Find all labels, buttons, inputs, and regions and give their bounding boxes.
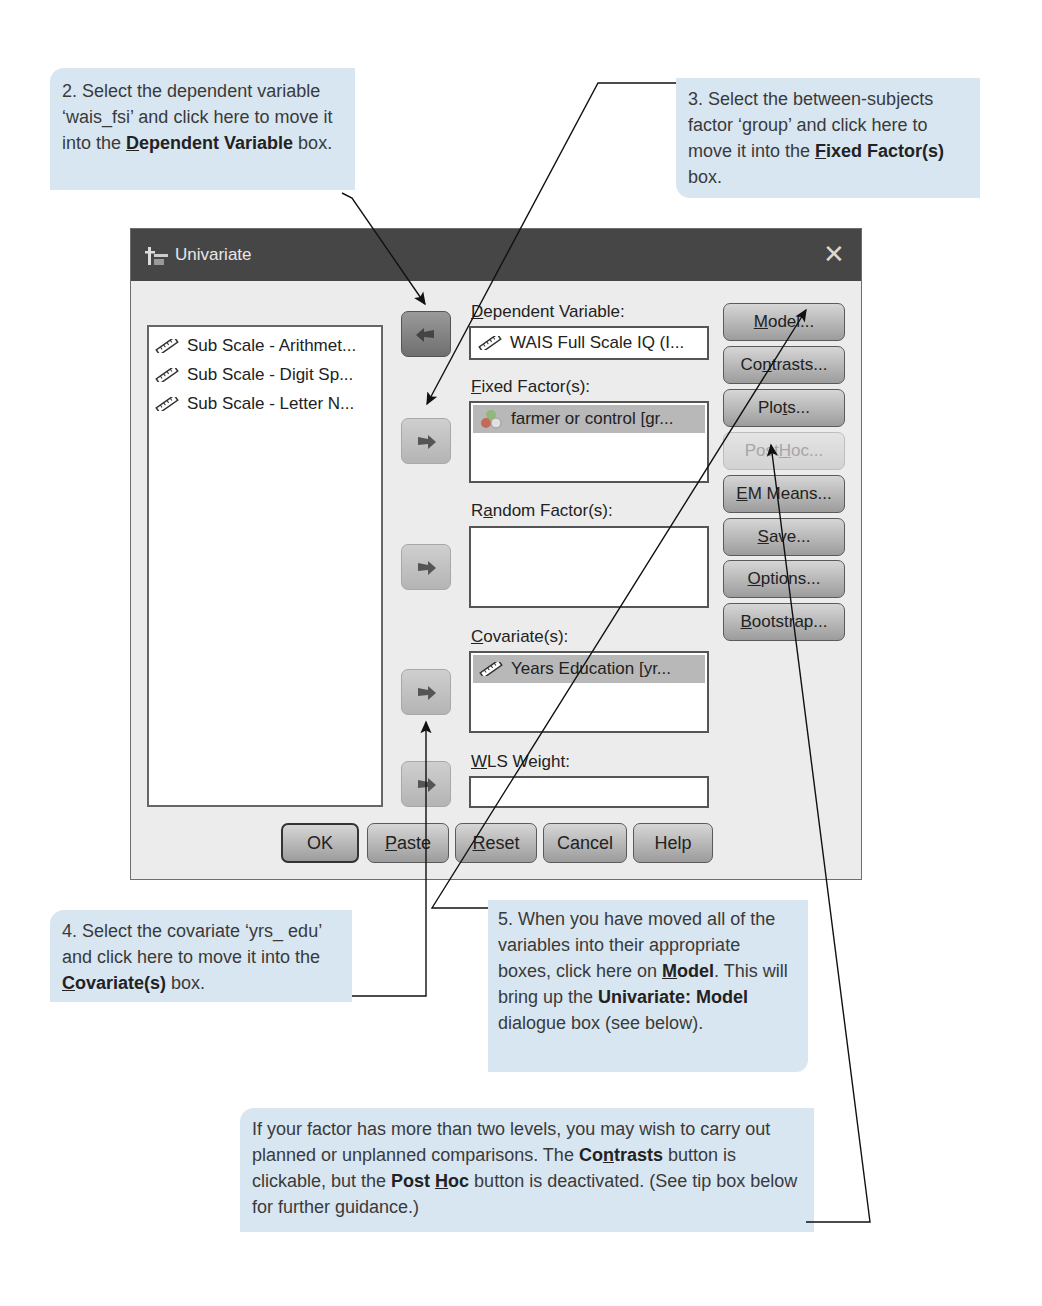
callout-tip: If your factor has more than two levels,…: [240, 1108, 814, 1232]
ok-button[interactable]: OK: [281, 823, 359, 863]
callout-step-5: 5. When you have moved all of the variab…: [488, 900, 808, 1072]
covariates-label: Covariate(s):: [471, 627, 568, 647]
move-random-factor-button[interactable]: [401, 544, 451, 590]
bootstrap-button[interactable]: Bootstrap...: [723, 603, 845, 641]
list-item[interactable]: farmer or control [gr...: [473, 405, 705, 433]
help-button[interactable]: Help: [633, 823, 713, 863]
list-item[interactable]: Sub Scale - Letter N...: [155, 389, 375, 418]
scale-ruler-icon: [479, 662, 503, 676]
save-button[interactable]: Save...: [723, 518, 845, 556]
scale-ruler-icon: [155, 339, 179, 353]
move-covariate-button[interactable]: [401, 669, 451, 715]
dependent-variable-label: Dependent Variable:: [471, 302, 625, 322]
callout-step-4: 4. Select the covariate ‘yrs_ edu’ and c…: [50, 910, 352, 1002]
arrow-right-icon: [414, 431, 438, 451]
fixed-factors-list[interactable]: farmer or control [gr...: [469, 401, 709, 483]
close-icon[interactable]: ✕: [823, 239, 845, 270]
move-dependent-button[interactable]: [401, 311, 451, 357]
paste-button[interactable]: Paste: [367, 823, 449, 863]
univariate-dialog: Univariate ✕ Sub Scale - Arithmet... Sub…: [130, 228, 862, 880]
dependent-variable-field[interactable]: WAIS Full Scale IQ (I...: [469, 326, 709, 360]
model-button[interactable]: Model...: [723, 303, 845, 341]
arrow-right-icon: [414, 774, 438, 794]
list-item[interactable]: Sub Scale - Arithmet...: [155, 331, 375, 360]
random-factors-label: Random Factor(s):: [471, 501, 613, 521]
covariates-list[interactable]: Years Education [yr...: [469, 651, 709, 733]
callout-step-3: 3. Select the between-subjects factor ‘g…: [676, 78, 980, 198]
source-variable-list[interactable]: Sub Scale - Arithmet... Sub Scale - Digi…: [147, 325, 383, 807]
plots-button[interactable]: Plots...: [723, 389, 845, 427]
random-factors-list[interactable]: [469, 526, 709, 608]
nominal-circles-icon: [479, 409, 503, 429]
options-button[interactable]: Options...: [723, 560, 845, 598]
scale-ruler-icon: [155, 368, 179, 382]
wls-weight-field[interactable]: [469, 776, 709, 808]
move-fixed-factor-button[interactable]: [401, 418, 451, 464]
dependent-variable-value[interactable]: WAIS Full Scale IQ (I...: [472, 329, 706, 357]
contrasts-button[interactable]: Contrasts...: [723, 346, 845, 384]
scale-ruler-icon: [478, 336, 502, 350]
em-means-button[interactable]: EM Means...: [723, 475, 845, 513]
post-hoc-button: Post Hoc...: [723, 432, 845, 470]
reset-button[interactable]: Reset: [455, 823, 537, 863]
callout-step-2: 2. Select the dependent variable ‘wais_f…: [50, 68, 355, 190]
univariate-app-icon: [145, 245, 169, 267]
scale-ruler-icon: [155, 397, 179, 411]
wls-weight-label: WLS Weight:: [471, 752, 570, 772]
list-item[interactable]: Sub Scale - Digit Sp...: [155, 360, 375, 389]
cancel-button[interactable]: Cancel: [543, 823, 627, 863]
arrow-right-icon: [414, 557, 438, 577]
move-wls-weight-button[interactable]: [401, 761, 451, 807]
dialog-title: Univariate: [175, 245, 252, 265]
fixed-factors-label: Fixed Factor(s):: [471, 377, 590, 397]
title-bar: Univariate ✕: [131, 229, 861, 281]
list-item[interactable]: Years Education [yr...: [473, 655, 705, 683]
arrow-left-icon: [414, 324, 438, 344]
arrow-right-icon: [414, 682, 438, 702]
